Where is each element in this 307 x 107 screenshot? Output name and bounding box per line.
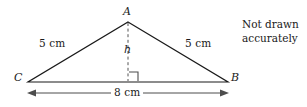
side-length-label-left: 5 cm [39, 38, 65, 49]
vertex-label-a: A [123, 6, 131, 17]
base-length-label: 8 cm [111, 87, 143, 98]
vertex-label-c: C [14, 72, 22, 83]
dimension-arrowhead-left [27, 90, 36, 97]
note-line-1: Not drawn [242, 17, 299, 31]
geometry-diagram: A B C 5 cm 5 cm h 8 cm Not drawn accurat… [0, 0, 307, 107]
height-label: h [124, 44, 131, 55]
dimension-arrowhead-right [220, 90, 229, 97]
side-length-label-right: 5 cm [185, 38, 211, 49]
vertex-label-b: B [231, 72, 239, 83]
note-line-2: accurately [242, 31, 299, 45]
not-drawn-accurately-note: Not drawn accurately [242, 17, 299, 45]
right-angle-marker [129, 72, 138, 81]
